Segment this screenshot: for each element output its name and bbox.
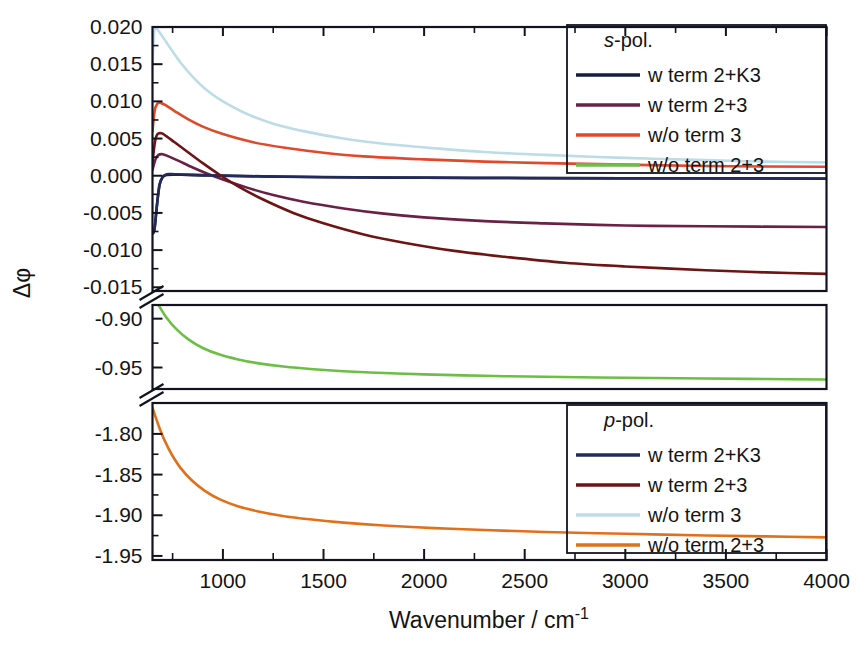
y-tick-label: 0.000 bbox=[90, 164, 143, 187]
legend-label-p-pol-2: w/o term 3 bbox=[647, 504, 741, 526]
legend-title-s-pol: s-pol. bbox=[604, 29, 653, 51]
delta-phi-vs-wavenumber-chart: 0.0200.0150.0100.0050.000-0.005-0.010-0.… bbox=[0, 0, 862, 650]
x-tick-label: 3000 bbox=[602, 569, 649, 592]
y-tick-label: -1.95 bbox=[95, 544, 143, 567]
x-axis-title: Wavenumber / cm-1 bbox=[389, 605, 589, 633]
y-tick-label: 0.020 bbox=[90, 15, 143, 38]
y-tick-label: 0.015 bbox=[90, 52, 143, 75]
y-tick-label: -0.010 bbox=[83, 238, 143, 261]
x-tick-label: 2000 bbox=[401, 569, 448, 592]
y-tick-label: 0.005 bbox=[90, 127, 143, 150]
legend-label-p-pol-0: w term 2+K3 bbox=[647, 444, 761, 466]
y-tick-label: -1.85 bbox=[95, 463, 143, 486]
y-tick-label: -1.80 bbox=[95, 422, 143, 445]
x-tick-label: 1500 bbox=[300, 569, 347, 592]
x-tick-label: 2500 bbox=[501, 569, 548, 592]
x-tick-label: 1000 bbox=[200, 569, 247, 592]
y-tick-label: -0.015 bbox=[83, 275, 143, 298]
y-tick-label: -1.90 bbox=[95, 503, 143, 526]
figure-container: 0.0200.0150.0100.0050.000-0.005-0.010-0.… bbox=[0, 0, 862, 650]
y-tick-label: 0.010 bbox=[90, 89, 143, 112]
y-axis-title: Δφ bbox=[9, 268, 35, 298]
x-tick-label: 3500 bbox=[703, 569, 750, 592]
y-tick-label: -0.005 bbox=[83, 201, 143, 224]
legend-label-s-pol-2: w/o term 3 bbox=[647, 124, 741, 146]
y-tick-label: -0.90 bbox=[95, 307, 143, 330]
x-tick-label: 4000 bbox=[803, 569, 850, 592]
legend-label-s-pol-0: w term 2+K3 bbox=[647, 64, 761, 86]
y-tick-label: -0.95 bbox=[95, 356, 143, 379]
legend-label-p-pol-3: w/o term 2+3 bbox=[647, 534, 764, 556]
legend-title-p-pol: p-pol. bbox=[603, 409, 654, 431]
legend-label-s-pol-3: w/o term 2+3 bbox=[647, 154, 764, 176]
legend-label-p-pol-1: w term 2+3 bbox=[647, 474, 747, 496]
legend-label-s-pol-1: w term 2+3 bbox=[647, 94, 747, 116]
